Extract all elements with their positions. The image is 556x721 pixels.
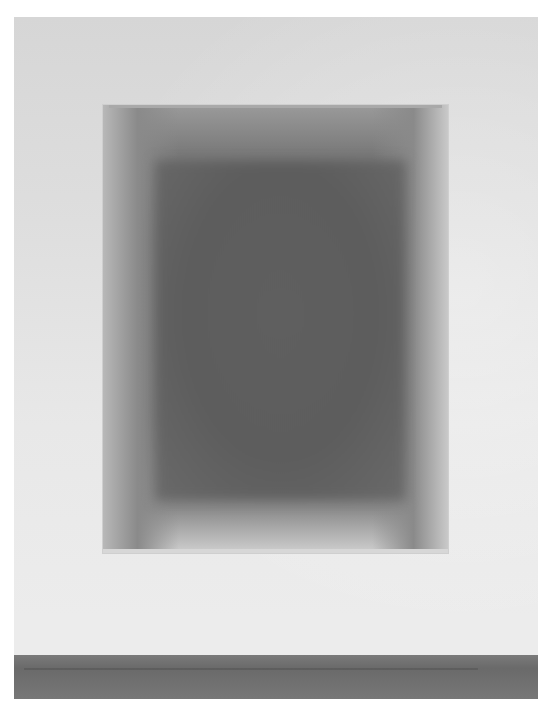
artwork-panel: [103, 105, 448, 553]
floor-seam: [24, 668, 478, 670]
floor: [14, 655, 538, 699]
photograph: [14, 17, 538, 699]
artwork-dark-center: [155, 160, 406, 501]
artwork-top-edge: [109, 105, 442, 108]
artwork-bottom-edge: [103, 549, 448, 553]
